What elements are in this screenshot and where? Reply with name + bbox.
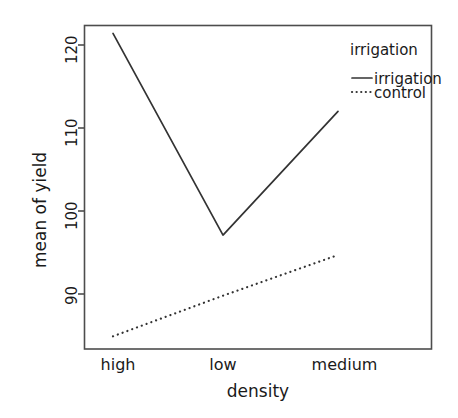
y-tick-label-90: 90 xyxy=(63,286,81,305)
y-axis-title: mean of yield xyxy=(30,152,50,268)
y-tick-label-110: 110 xyxy=(63,118,81,147)
x-category-label-high: high xyxy=(68,355,168,374)
x-category-label-medium: medium xyxy=(287,355,402,374)
legend-title: irrigation xyxy=(350,41,418,59)
y-tick-label-120: 120 xyxy=(63,35,81,64)
legend-label-control: control xyxy=(374,84,426,102)
x-axis-title: density xyxy=(188,381,328,401)
y-tick-label-100: 100 xyxy=(63,201,81,230)
series-line-control xyxy=(113,255,338,336)
interaction-plot-figure: mean of yield density 120 110 100 90 hig… xyxy=(0,0,458,418)
series-line-irrigation xyxy=(113,33,338,235)
y-axis-ticks xyxy=(78,45,85,294)
x-category-label-low: low xyxy=(178,355,268,374)
